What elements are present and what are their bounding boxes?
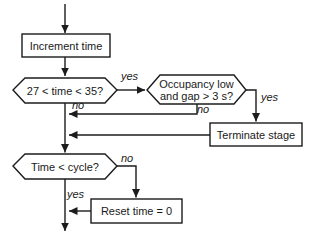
edge-occupancy-yes	[246, 90, 256, 122]
flowchart-diagram: Increment time 27 < time < 35? Occupancy…	[0, 0, 315, 245]
flowchart-shapes-and-arrows	[0, 0, 315, 245]
process-box-terminate-stage	[210, 123, 302, 146]
decision-shape-cycle	[13, 154, 117, 179]
process-box-reset-time	[91, 199, 182, 223]
decision-shape-occupancy	[147, 75, 246, 104]
process-box-increment-time	[22, 34, 110, 57]
edge-occupancy-no	[69, 104, 197, 114]
edge-cycle-no	[117, 166, 136, 198]
decision-shape-time-window	[13, 78, 117, 103]
